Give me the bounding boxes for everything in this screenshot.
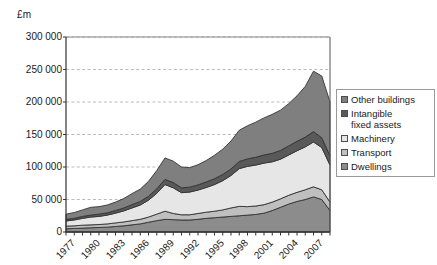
legend-item-transport[interactable]: Transport <box>341 147 431 158</box>
x-tick-label: 1977 <box>28 238 77 265</box>
legend-item-dwellings[interactable]: Dwellings <box>341 161 431 172</box>
legend-item-label: Other buildings <box>351 94 415 105</box>
legend-item-label: Dwellings <box>351 161 392 172</box>
legend-item-label: Machinery <box>351 133 395 144</box>
legend-item-label: Intangible fixed assets <box>351 108 401 130</box>
legend-item-machinery[interactable]: Machinery <box>341 133 431 144</box>
legend-item-label: Transport <box>351 147 391 158</box>
legend-swatch-icon <box>341 110 348 117</box>
chart-legend: Other buildingsIntangible fixed assetsMa… <box>336 89 435 177</box>
legend-swatch-icon <box>341 149 348 156</box>
legend-item-other-buildings[interactable]: Other buildings <box>341 94 431 105</box>
chart-figure: £m 050 000100 000150 000200 000250 00030… <box>0 0 437 265</box>
legend-item-intangible-fixed-assets[interactable]: Intangible fixed assets <box>341 108 431 130</box>
legend-swatch-icon <box>341 135 348 142</box>
legend-swatch-icon <box>341 163 348 170</box>
legend-swatch-icon <box>341 96 348 103</box>
